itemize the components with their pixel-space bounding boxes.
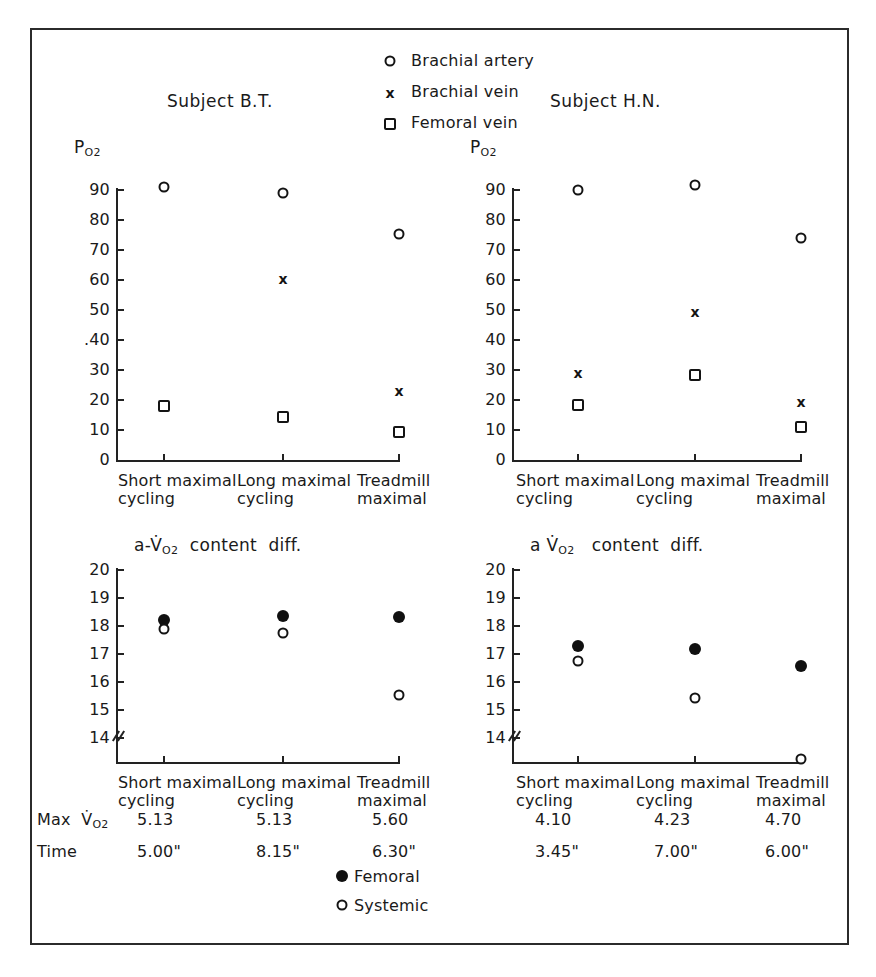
ytick-avo2-right-1: 19 [472,589,506,607]
subject-title-right: Subject H.N. [550,92,661,111]
axis-break-icon-right [506,730,522,746]
ytick-avo2-left-1: 19 [76,589,110,607]
xlabel-po2-right-2: Long maximal cycling [636,472,750,508]
ytick-avo2-right-2: 18 [472,617,506,635]
xlabel-po2-left-2: Long maximal cycling [237,472,351,508]
axis-break-icon-left [110,730,126,746]
xlabel-avo2-left-2: Long maximal cycling [237,774,351,810]
ytick-avo2-right-4: 16 [472,673,506,691]
ytick-po2-right-8: 10 [462,421,506,439]
row-label-time: Time [37,843,77,861]
ytick-po2-left-2: 70 [66,241,110,259]
point-systemic-2 [690,693,701,704]
point-femoral-3 [393,611,405,623]
legend-label-femoral: Femoral [354,868,420,886]
point-brachial-artery-1 [573,185,584,196]
point-brachial-artery-3 [394,229,405,240]
y-axis-line-po2-left [116,188,118,462]
xlabel-po2-left-3: Treadmill maximal [357,472,430,508]
cell-time-1: 5.00" [137,843,181,861]
point-systemic-3 [796,754,807,765]
ytick-po2-left-1: 80 [66,211,110,229]
cell-time-3: 6.30" [372,843,416,861]
ytick-po2-right-9: 0 [462,451,506,469]
legend-label-femoral-vein: Femoral vein [411,114,518,132]
ytick-avo2-right-0: 20 [472,561,506,579]
axis-label-po2-left: PO2 [74,138,101,159]
legend-label-systemic: Systemic [354,897,429,915]
x-axis-line-avo2-left [116,762,400,764]
point-femoral-1 [572,640,584,652]
point-femoral-2 [689,643,701,655]
point-systemic-1 [573,656,584,667]
point-brachial-artery-3 [796,233,807,244]
point-systemic-3 [394,690,405,701]
x-axis-line-po2-right [512,460,802,462]
ytick-po2-right-7: 20 [462,391,506,409]
ytick-po2-right-6: 30 [462,361,506,379]
point-femoral-3 [795,660,807,672]
ytick-po2-left-6: 30 [66,361,110,379]
point-femoral-vein-3 [393,426,405,438]
ytick-avo2-right-6: 14 [472,729,506,747]
ytick-po2-left-4: 50 [66,301,110,319]
point-brachial-vein-2: x [689,306,702,319]
ytick-po2-right-2: 70 [462,241,506,259]
figure-frame: Brachial artery x Brachial vein Femoral … [30,28,849,945]
axis-label-avo2-right: a V̇O2 content diff. [530,536,704,557]
ytick-po2-left-3: 60 [66,271,110,289]
row-label-max-vo2: Max V̇O2 [37,811,108,831]
xlabel-avo2-right-3: Treadmill maximal [756,774,829,810]
legend-label-brachial-artery: Brachial artery [411,52,534,70]
x-axis-line-avo2-right [512,762,802,764]
cell-vo2-1: 5.13 [137,811,173,829]
xlabel-avo2-left-3: Treadmill maximal [357,774,430,810]
ytick-po2-right-0: 90 [462,181,506,199]
point-femoral-vein-1 [158,400,170,412]
ytick-avo2-left-0: 20 [76,561,110,579]
ytick-avo2-left-6: 14 [76,729,110,747]
x-axis-line-po2-left [116,460,400,462]
point-systemic-2 [278,628,289,639]
xlabel-avo2-right-1: Short maximal cycling [516,774,634,810]
point-brachial-vein-3: x [393,385,406,398]
cell-vo2-3: 4.70 [765,811,801,829]
ytick-avo2-left-3: 17 [76,645,110,663]
point-brachial-artery-2 [690,180,701,191]
cell-vo2-1: 4.10 [535,811,571,829]
ytick-po2-left-7: 20 [66,391,110,409]
y-axis-line-po2-right [512,188,514,462]
xlabel-avo2-right-2: Long maximal cycling [636,774,750,810]
cell-time-2: 7.00" [654,843,698,861]
ytick-po2-right-4: 50 [462,301,506,319]
point-femoral-vein-1 [572,399,584,411]
cell-time-3: 6.00" [765,843,809,861]
ytick-po2-left-5: .40 [66,331,110,349]
ytick-avo2-left-2: 18 [76,617,110,635]
xlabel-po2-right-3: Treadmill maximal [756,472,829,508]
ytick-avo2-right-5: 15 [472,701,506,719]
ytick-po2-right-5: 40 [462,331,506,349]
cell-time-2: 8.15" [256,843,300,861]
xlabel-avo2-left-1: Short maximal cycling [118,774,236,810]
ytick-avo2-right-3: 17 [472,645,506,663]
ytick-po2-left-9: 0 [66,451,110,469]
ytick-po2-right-1: 80 [462,211,506,229]
point-femoral-2 [277,610,289,622]
ytick-po2-left-8: 10 [66,421,110,439]
subject-title-left: Subject B.T. [167,92,273,111]
ytick-po2-right-3: 60 [462,271,506,289]
point-brachial-vein-3: x [795,396,808,409]
point-systemic-1 [159,624,170,635]
cell-vo2-2: 5.13 [256,811,292,829]
point-femoral-vein-3 [795,421,807,433]
cell-vo2-3: 5.60 [372,811,408,829]
ytick-po2-left-0: 90 [66,181,110,199]
cell-vo2-2: 4.23 [654,811,690,829]
legend-marker-systemic [337,900,348,911]
point-brachial-artery-2 [278,188,289,199]
point-femoral-vein-2 [689,369,701,381]
point-brachial-artery-1 [159,182,170,193]
xlabel-po2-left-1: Short maximal cycling [118,472,236,508]
legend-marker-femoral [336,870,348,882]
